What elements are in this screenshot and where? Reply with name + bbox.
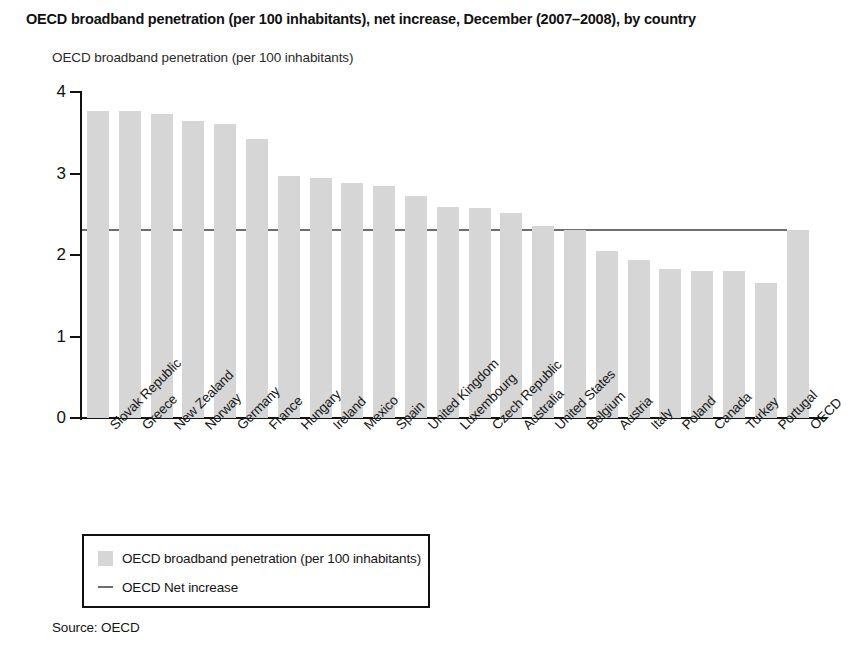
y-axis-tick-mark xyxy=(70,91,82,93)
x-axis-category-label: New Zealand xyxy=(171,422,182,433)
legend-line-swatch-icon xyxy=(98,586,113,588)
x-axis-category-label: Hungary xyxy=(298,422,309,433)
y-axis-tick-label: 3 xyxy=(36,164,66,184)
bar xyxy=(246,139,268,418)
x-axis-category-label: Turkey xyxy=(743,422,754,433)
x-axis-category-label: Ireland xyxy=(330,422,341,433)
x-axis-category-label: Czech Republic xyxy=(489,422,500,433)
y-axis-tick-label: 1 xyxy=(36,327,66,347)
bar xyxy=(659,269,681,418)
x-axis-category-label: United States xyxy=(552,422,563,433)
x-axis-category-label: OECD xyxy=(807,422,818,433)
bar xyxy=(310,178,332,418)
bar xyxy=(278,176,300,418)
x-axis-category-label: Germany xyxy=(234,422,245,433)
legend-bar-swatch-icon xyxy=(98,551,113,566)
bar xyxy=(437,207,459,418)
x-axis-category-labels: Slovak RepublicGreeceNew ZealandNorwayGe… xyxy=(82,422,842,537)
bar xyxy=(87,111,109,418)
chart-legend: OECD broadband penetration (per 100 inha… xyxy=(82,534,430,608)
bar xyxy=(119,111,141,418)
x-axis-category-label: Spain xyxy=(393,422,404,433)
x-axis-category-label: France xyxy=(266,422,277,433)
y-axis-tick-labels: 01234 xyxy=(20,0,66,653)
chart-figure: OECD broadband penetration (per 100 inha… xyxy=(0,0,850,653)
y-axis-tick-mark xyxy=(70,336,82,338)
x-axis-category-label: Poland xyxy=(679,422,690,433)
y-axis-title: OECD broadband penetration (per 100 inha… xyxy=(52,50,353,65)
bar xyxy=(405,196,427,418)
x-axis-category-label: Luxembourg xyxy=(457,422,468,433)
x-axis-category-label: Portugal xyxy=(775,422,786,433)
x-axis-category-label: United Kingdom xyxy=(425,422,436,433)
y-axis-tick-mark xyxy=(70,417,82,419)
x-axis-category-label: Slovak Republic xyxy=(107,422,118,433)
legend-label-broadband-penetration: OECD broadband penetration (per 100 inha… xyxy=(122,551,421,566)
x-axis-category-label: Italy xyxy=(648,422,659,433)
y-axis-tick-label: 4 xyxy=(36,82,66,102)
y-axis-tick-mark xyxy=(70,254,82,256)
x-axis-category-label: Greece xyxy=(139,422,150,433)
y-axis-tick-mark xyxy=(70,173,82,175)
bar xyxy=(373,186,395,418)
plot-area xyxy=(82,92,827,418)
chart-title: OECD broadband penetration (per 100 inha… xyxy=(26,10,836,28)
bar xyxy=(341,183,363,418)
x-axis-category-label: Austria xyxy=(616,422,627,433)
x-axis-category-label: Australia xyxy=(520,422,531,433)
legend-label-net-increase: OECD Net increase xyxy=(122,580,238,595)
source-note: Source: OECD xyxy=(52,620,139,635)
legend-item-broadband-penetration: OECD broadband penetration (per 100 inha… xyxy=(98,548,421,568)
x-axis-category-label: Mexico xyxy=(361,422,372,433)
legend-item-net-increase: OECD Net increase xyxy=(98,577,238,597)
y-axis-tick-label: 2 xyxy=(36,245,66,265)
y-axis-tick-label: 0 xyxy=(36,408,66,428)
x-axis-category-label: Norway xyxy=(202,422,213,433)
bar xyxy=(182,121,204,418)
x-axis-category-label: Belgium xyxy=(584,422,595,433)
x-axis-category-label: Canada xyxy=(711,422,722,433)
